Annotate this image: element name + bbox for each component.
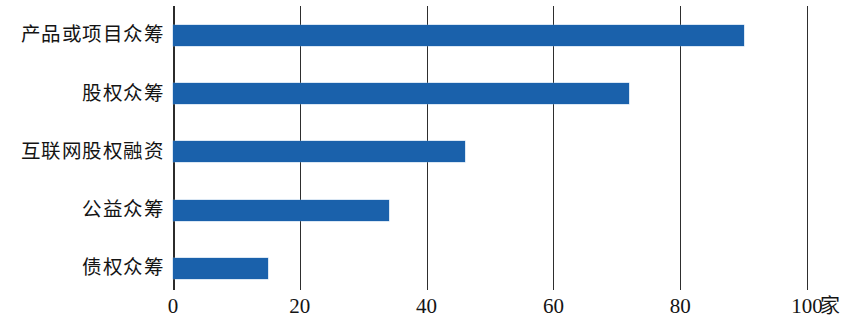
x-tick-1: 20 [289, 292, 310, 320]
gridline-60 [553, 6, 554, 290]
x-tick-5: 100 [791, 292, 823, 320]
x-axis-tick-labels: 0 20 40 60 80 100 家 [0, 292, 859, 324]
bar-3 [173, 200, 389, 221]
category-label-3: 公益众筹 [0, 199, 164, 221]
category-label-0: 产品或项目众筹 [0, 24, 164, 46]
category-axis-labels: 产品或项目众筹 股权众筹 互联网股权融资 公益众筹 债权众筹 [0, 0, 168, 290]
category-label-2: 互联网股权融资 [0, 141, 164, 163]
x-tick-4: 80 [670, 292, 691, 320]
category-label-4: 债权众筹 [0, 257, 164, 279]
x-tick-2: 40 [416, 292, 437, 320]
category-label-1: 股权众筹 [0, 83, 164, 105]
x-tick-0: 0 [168, 292, 179, 320]
plot-area [173, 6, 859, 290]
gridline-80 [680, 6, 681, 290]
x-tick-3: 60 [543, 292, 564, 320]
bar-chart: 产品或项目众筹 股权众筹 互联网股权融资 公益众筹 债权众筹 0 20 40 6… [0, 0, 859, 324]
bar-2 [173, 141, 465, 162]
x-axis-unit-label: 家 [820, 292, 840, 320]
gridline-100 [807, 6, 808, 290]
bar-4 [173, 258, 268, 279]
bar-0 [173, 25, 744, 46]
bar-1 [173, 83, 629, 104]
